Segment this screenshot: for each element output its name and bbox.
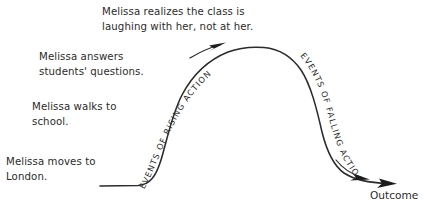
outcome-label: Outcome [370,189,418,201]
annotation-rising-event-1: Melissa walks to school. [32,100,117,129]
rising-action-curve-label: EVENTS OF RISING ACTION [137,68,213,190]
annotation-climax: Melissa realizes the class is laughing w… [102,5,253,34]
annotation-exposition: Melissa moves to London. [6,155,96,184]
annotation-rising-event-2: Melissa answers students' questions. [39,50,144,79]
rising-action-arrowhead-icon [208,43,226,52]
